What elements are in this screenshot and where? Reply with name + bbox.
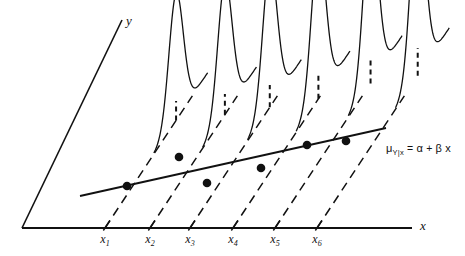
equation-alpha: α — [416, 142, 423, 154]
mean-dot-3 — [203, 179, 212, 188]
x-tick-1 — [103, 220, 110, 230]
normal-curve-1 — [154, 0, 208, 153]
x-tick-label-2: x2 — [145, 232, 154, 248]
mean-dot-5 — [303, 141, 312, 150]
equation-subscript: Y|x — [393, 148, 404, 157]
normal-curve-6 — [396, 0, 450, 108]
x-tick-label-5: x5 — [270, 232, 279, 248]
x-tick-label-6: x6 — [312, 232, 321, 248]
tick-label-subscript: 4 — [234, 239, 238, 248]
x-tick-label-3: x3 — [185, 232, 194, 248]
mean-dot-4 — [257, 164, 266, 173]
tick-label-subscript: 1 — [106, 239, 110, 248]
tick-label-subscript: 6 — [318, 239, 322, 248]
normal-curve-2 — [203, 0, 257, 147]
tick-label-subscript: 3 — [191, 239, 195, 248]
depth-baseline-4 — [233, 96, 320, 228]
tick-label-subscript: 2 — [151, 239, 155, 248]
x-tick-label-4: x4 — [228, 232, 237, 248]
normal-curve-4 — [296, 0, 350, 131]
equation-variable-x: x — [445, 142, 451, 154]
depth-baseline-6 — [317, 96, 404, 228]
x-tick-label-1: x1 — [100, 232, 109, 248]
x-tick-5 — [273, 220, 280, 230]
normal-curve-5 — [348, 0, 402, 116]
regression-diagram-figure: y x x1x2x3x4x5x6 μY|x = α + β x — [0, 0, 465, 256]
normal-curves-group — [154, 0, 449, 153]
x-tick-2 — [148, 220, 155, 230]
y-axis-label: y — [126, 13, 132, 29]
x-axis-label: x — [420, 218, 426, 234]
regression-equation-label: μY|x = α + β x — [386, 142, 451, 157]
diagram-canvas — [0, 0, 465, 256]
mean-dot-2 — [175, 153, 184, 162]
y-axis-line — [22, 20, 122, 228]
x-tick-4 — [231, 220, 238, 230]
tick-label-subscript: 5 — [276, 239, 280, 248]
equation-equals: = — [407, 142, 413, 154]
equation-beta: β — [436, 142, 443, 154]
normal-curve-3 — [248, 0, 302, 140]
x-tick-6 — [315, 220, 322, 230]
x-axis-ticks-group — [103, 220, 322, 230]
equation-plus: + — [426, 142, 432, 154]
depth-baseline-5 — [275, 96, 362, 228]
mean-dot-1 — [123, 182, 132, 191]
depth-baseline-1 — [105, 96, 192, 228]
x-tick-3 — [188, 220, 195, 230]
mean-dot-6 — [342, 137, 351, 146]
